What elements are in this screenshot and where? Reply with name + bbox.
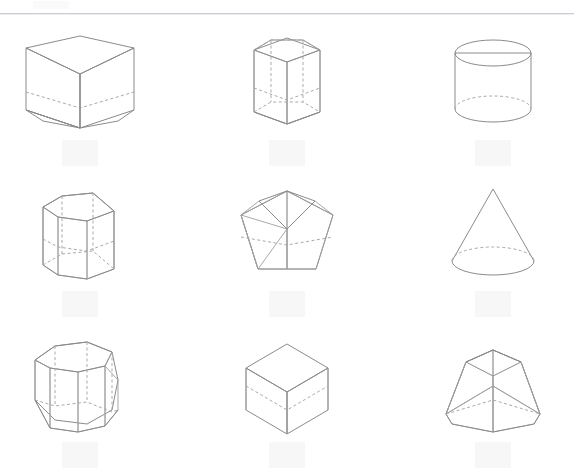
solid-cell-pentagonal-prism-flat[interactable] <box>191 173 382 324</box>
triangular-prism-figure <box>17 26 143 138</box>
label-slot[interactable] <box>62 442 98 468</box>
solid-cell-cube[interactable] <box>191 324 382 475</box>
solid-cell-square-frustum[interactable] <box>383 324 574 475</box>
header-divider-shadow <box>0 14 574 15</box>
pentagonal-prism-figure <box>224 26 350 138</box>
solid-cell-cone[interactable] <box>383 173 574 324</box>
solids-grid <box>0 22 574 475</box>
cube-figure <box>224 328 350 440</box>
solid-cell-pentagonal-prism[interactable] <box>191 22 382 173</box>
header-smudge <box>33 1 69 9</box>
solid-cell-triangular-prism[interactable] <box>0 22 191 173</box>
label-slot[interactable] <box>475 291 511 317</box>
label-slot[interactable] <box>62 291 98 317</box>
label-slot[interactable] <box>269 291 305 317</box>
cylinder-figure <box>430 26 556 138</box>
label-slot[interactable] <box>475 140 511 166</box>
worksheet-page <box>0 0 574 475</box>
cone-figure <box>430 177 556 289</box>
solid-cell-cylinder[interactable] <box>383 22 574 173</box>
square-frustum-figure <box>430 328 556 440</box>
hexagonal-prism-figure <box>17 177 143 289</box>
label-slot[interactable] <box>269 442 305 468</box>
solid-cell-hexagonal-prism[interactable] <box>0 173 191 324</box>
label-slot[interactable] <box>269 140 305 166</box>
label-slot[interactable] <box>62 140 98 166</box>
solid-cell-octagonal-prism[interactable] <box>0 324 191 475</box>
label-slot[interactable] <box>475 442 511 468</box>
octagonal-prism-figure <box>17 328 143 440</box>
pentagonal-prism-flat-figure <box>224 177 350 289</box>
